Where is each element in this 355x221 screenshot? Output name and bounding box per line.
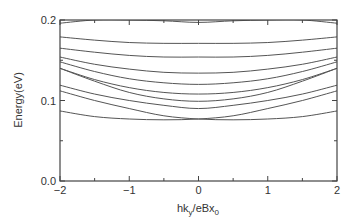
x-tick-label: −1 bbox=[123, 184, 136, 196]
band-4-curve bbox=[60, 57, 337, 73]
plot-frame bbox=[60, 20, 337, 181]
x-axis-label: hky/eBx0 bbox=[177, 202, 220, 217]
energy-band-chart: −2−1012 0.00.10.2 Energy(eV) hky/eBx0 bbox=[0, 0, 355, 221]
band-curves bbox=[60, 20, 337, 120]
y-tick-label: 0.0 bbox=[41, 175, 56, 187]
x-tick-label: 0 bbox=[195, 184, 201, 196]
y-axis-label: Energy(eV) bbox=[12, 72, 24, 128]
y-tick-label: 0.1 bbox=[41, 95, 56, 107]
band-3-curve bbox=[60, 48, 337, 57]
x-axis-ticks: −2−1012 bbox=[54, 20, 340, 196]
band-6-curve bbox=[60, 68, 337, 94]
y-tick-label: 0.2 bbox=[41, 14, 56, 26]
band-2-curve bbox=[60, 37, 337, 43]
band-8-curve bbox=[60, 85, 337, 108]
y-axis-ticks: 0.00.10.2 bbox=[41, 14, 337, 187]
x-tick-label: 2 bbox=[334, 184, 340, 196]
x-tick-label: 1 bbox=[265, 184, 271, 196]
